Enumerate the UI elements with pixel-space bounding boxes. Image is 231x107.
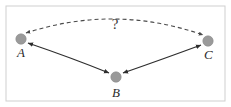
- node-c-dot: [203, 36, 213, 46]
- node-b-label: B: [112, 85, 120, 100]
- diagram-svg: A B C ?: [0, 0, 231, 107]
- edge-b-c: [123, 45, 201, 73]
- node-a-label: A: [16, 45, 25, 60]
- node-c-label: C: [204, 47, 213, 62]
- diagram-canvas: A B C ?: [0, 0, 231, 107]
- node-b-dot: [111, 72, 121, 82]
- unknown-relation-marker: ?: [112, 16, 119, 32]
- node-a-dot: [16, 34, 26, 44]
- edge-a-b: [28, 43, 109, 73]
